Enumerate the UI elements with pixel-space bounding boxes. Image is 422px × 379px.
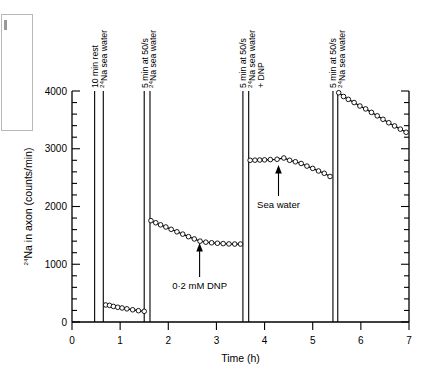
chart-svg: 0 1000 2000 3000 4000 0 1 2 3 4 5 6 7 Ti… — [0, 0, 422, 379]
data-point — [192, 237, 197, 242]
data-point — [310, 166, 315, 171]
data-point — [305, 164, 310, 169]
annotation-sea-water: Sea water — [257, 165, 300, 210]
data-point — [358, 104, 363, 109]
x-tick-label-2: 2 — [166, 335, 172, 346]
data-point — [275, 157, 280, 162]
x-tick-label-6: 6 — [358, 335, 364, 346]
axes-group — [72, 91, 409, 322]
data-point — [369, 110, 374, 115]
series-segment-3-sea-water — [248, 156, 333, 179]
x-tick-label-0: 0 — [69, 335, 75, 346]
data-point — [299, 161, 304, 166]
data-point — [164, 225, 169, 230]
data-point — [232, 242, 237, 247]
data-point — [282, 156, 287, 161]
y-axis-title-main: Na in axon (counts/min) — [22, 148, 34, 259]
data-point — [262, 158, 267, 163]
data-point — [238, 242, 243, 247]
data-point — [375, 114, 380, 119]
data-point — [293, 159, 298, 164]
data-point — [204, 240, 209, 245]
y-tick-label-4000: 4000 — [45, 86, 68, 97]
dnp-annotation-label: 0·2 mM DNP — [172, 280, 227, 291]
x-axis-ticks — [72, 322, 409, 330]
data-point — [115, 305, 120, 310]
data-point — [381, 117, 386, 122]
event-labels-group: 10 min rest 24Na sea water 5 min at 50/s… — [90, 30, 347, 88]
sea-water-annotation-label: Sea water — [257, 199, 300, 210]
y-tick-label-2000: 2000 — [45, 201, 68, 212]
data-point — [186, 234, 191, 239]
data-point — [153, 220, 158, 225]
x-tick-label-1: 1 — [117, 335, 123, 346]
data-point — [158, 223, 163, 228]
dnp-arrowhead — [196, 243, 203, 252]
x-tick-label-4: 4 — [262, 335, 268, 346]
data-point — [120, 306, 125, 311]
data-point — [180, 232, 185, 237]
data-point — [149, 218, 154, 223]
data-point — [287, 158, 292, 163]
data-point — [404, 130, 409, 135]
event-label-na-sea-water-3: 24Na sea water — [336, 30, 347, 88]
y-tick-label-0: 0 — [61, 317, 67, 328]
y-axis-major-ticks — [72, 91, 409, 322]
svg-text:24Na in axon (counts/min): 24Na in axon (counts/min) — [22, 148, 34, 266]
x-tick-label-3: 3 — [214, 335, 220, 346]
y-axis-tick-labels: 0 1000 2000 3000 4000 — [45, 86, 68, 328]
data-point — [268, 157, 273, 162]
x-tick-label-5: 5 — [310, 335, 316, 346]
data-point — [136, 308, 141, 313]
annotation-dnp: 0·2 mM DNP — [172, 243, 227, 291]
data-point — [111, 304, 116, 309]
series-segment-2-dnp — [149, 218, 243, 246]
data-point — [248, 158, 253, 163]
y-axis-minor-ticks — [72, 103, 409, 311]
y-tick-label-3000: 3000 — [45, 143, 68, 154]
data-point — [198, 239, 203, 244]
y-axis-title: 24Na in axon (counts/min) — [22, 148, 34, 266]
data-point — [336, 90, 341, 95]
x-axis-tick-labels: 0 1 2 3 4 5 6 7 — [69, 335, 412, 346]
data-point — [386, 120, 391, 125]
data-point — [392, 124, 397, 129]
data-point — [130, 307, 135, 312]
x-axis-title: Time (h) — [221, 352, 260, 364]
sea-water-arrowhead — [275, 165, 282, 174]
data-point — [341, 94, 346, 99]
series-segment-4-final — [336, 90, 408, 134]
data-point — [352, 100, 357, 105]
x-tick-label-7: 7 — [406, 335, 412, 346]
data-point — [253, 158, 258, 163]
data-point — [316, 169, 321, 174]
data-point — [257, 158, 262, 163]
data-point — [346, 97, 351, 102]
data-point — [328, 174, 333, 179]
data-point — [227, 242, 232, 247]
data-point — [125, 307, 130, 312]
data-point — [322, 171, 327, 176]
data-point — [169, 227, 174, 232]
y-tick-label-1000: 1000 — [45, 259, 68, 270]
data-series-layer — [103, 90, 408, 313]
data-point — [142, 309, 147, 314]
data-point — [175, 229, 180, 234]
data-point — [398, 127, 403, 132]
event-label-na-sea-water-1: 24Na sea water — [98, 30, 109, 88]
data-point — [221, 241, 226, 246]
figure-container: 0 1000 2000 3000 4000 0 1 2 3 4 5 6 7 Ti… — [0, 0, 422, 379]
data-point — [215, 241, 220, 246]
data-point — [209, 240, 214, 245]
data-point — [363, 107, 368, 112]
event-label-plus-dnp: + DNP — [256, 62, 266, 88]
series-segment-1-rest — [103, 303, 146, 314]
event-label-na-sea-water-2: 24Na sea water — [147, 30, 158, 88]
